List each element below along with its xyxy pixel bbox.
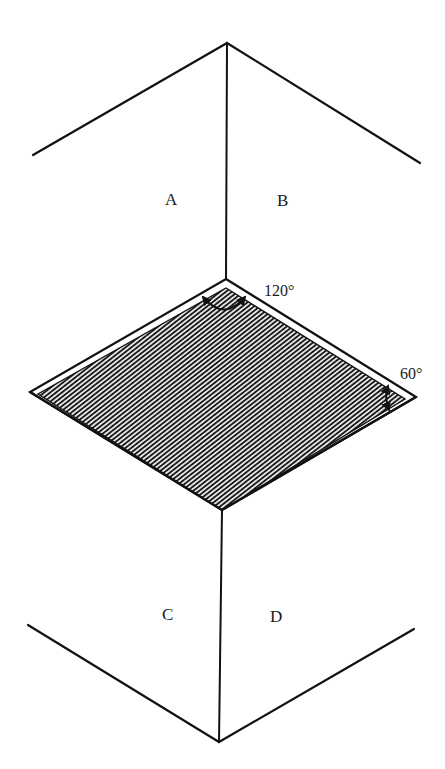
- upper-left-edge: [33, 43, 227, 155]
- region-label-b: B: [277, 191, 288, 210]
- upper-corner: [33, 43, 420, 279]
- upper-vertical-edge: [226, 43, 227, 279]
- lower-vertical-edge: [219, 510, 222, 742]
- angle-60-label: 60°: [400, 365, 422, 382]
- upper-right-edge: [227, 43, 420, 163]
- lower-right-edge: [219, 629, 414, 742]
- region-label-a: A: [165, 190, 178, 209]
- angle-120-label: 120°: [264, 282, 294, 299]
- plane-hatched-area: [38, 288, 405, 510]
- lower-left-edge: [28, 625, 219, 742]
- region-label-c: C: [162, 605, 173, 624]
- region-label-d: D: [270, 607, 282, 626]
- lower-corner: [28, 510, 414, 742]
- diagram-canvas: 120° 60° A B C D: [0, 0, 445, 769]
